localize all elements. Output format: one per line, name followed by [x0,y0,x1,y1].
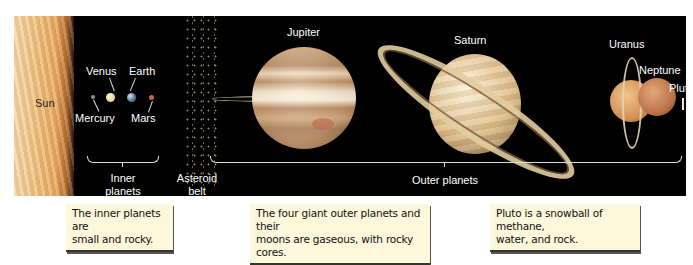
pluto-marker [682,98,684,110]
saturn-ring [365,27,588,196]
outer-planets-caption: The four giant outer planets and their m… [250,204,430,265]
pluto-label: Pluto [669,82,686,95]
caption-line: small and rocky. [72,233,167,246]
mercury-pointer [93,100,99,112]
caption-line: The four giant outer planets and their [256,207,424,233]
earth-pointer [130,78,136,91]
solar-system-panel: Sun Venus Earth Mercury Mars Inner plane… [14,16,686,196]
caption-line: The inner planets are [72,207,167,233]
inner-label-line1: Inner [102,172,144,185]
mercury-planet [91,95,95,99]
outer-planets-brace [210,156,682,163]
sun-label: Sun [35,97,55,110]
outer-planets-label: Outer planets [412,174,478,187]
mercury-label: Mercury [75,112,115,125]
inner-planets-brace [87,156,159,163]
belt-label-line2: belt [174,185,220,196]
venus-label: Venus [86,65,117,78]
inner-planets-label: Inner planets [102,172,144,196]
saturn-label: Saturn [454,34,486,47]
mars-planet [149,95,154,100]
jupiter-label: Jupiter [287,26,320,39]
mars-pointer [148,101,153,113]
earth-label: Earth [129,65,155,78]
inner-label-line2: planets [102,185,144,196]
outer-brace-tip [444,162,445,167]
inner-planets-caption: The inner planets are small and rocky. [66,204,173,252]
caption-line: water, and rock. [496,233,634,246]
caption-line: moons are gaseous, with rocky cores. [256,233,424,259]
neptune-label: Neptune [639,64,681,77]
uranus-label: Uranus [609,38,644,51]
caption-line: Pluto is a snowball of methane, [496,207,634,233]
jupiter-planet [252,47,356,149]
asteroid-belt-label: Asteroid belt [174,172,220,196]
venus-pointer [109,78,115,91]
pluto-caption: Pluto is a snowball of methane, water, a… [490,204,640,252]
great-red-spot [312,118,334,130]
inner-brace-tip [122,162,123,167]
venus-planet [106,93,115,102]
mars-label: Mars [131,112,155,125]
earth-planet [127,93,136,102]
belt-label-line1: Asteroid [174,172,220,185]
